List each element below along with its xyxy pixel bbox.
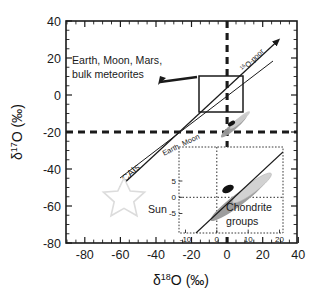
x-tick-label: -20: [182, 248, 200, 262]
inset-x-tick-label: 20: [275, 235, 284, 244]
x-axis-element: O: [171, 272, 182, 288]
inset-y-tick-label: -5: [169, 209, 177, 218]
x-tick-label: 40: [291, 248, 305, 262]
y-axis-element: O: [9, 131, 25, 142]
x-tick-label: 20: [256, 248, 270, 262]
y-tick-label: 20: [47, 52, 61, 66]
x-axis-units: (‰): [186, 272, 209, 288]
inset-x-tick-label: -10: [180, 235, 192, 244]
sun-label: Sun: [148, 203, 167, 215]
chondrite-groups-inset: -10 0 10 20 -5 0 5 Chondrite groups: [169, 147, 285, 244]
y-axis-delta: δ: [9, 152, 25, 160]
y-axis-mass: 17: [9, 142, 19, 152]
inset-y-tick-label: 0: [172, 193, 177, 202]
x-axis-mass: 18: [161, 272, 171, 282]
bulk-callout-line-1: Earth, Moon, Mars,: [72, 54, 162, 66]
y-tick-label: 40: [47, 15, 61, 29]
x-tick-label: -40: [147, 248, 165, 262]
inset-label-line-1: Chondrite: [226, 201, 272, 213]
inset-y-tick-label: 5: [172, 177, 177, 186]
chart-canvas: -80 -60 -40 -20 0 20 40 40 20 0 -20 -40 …: [0, 0, 316, 296]
x-tick-label: 0: [224, 248, 231, 262]
y-tick-label: -80: [43, 237, 61, 251]
y-tick-label: -40: [43, 163, 61, 177]
inset-label-line-2: groups: [226, 215, 258, 227]
bulk-callout-line-2: bulk meteorites: [72, 68, 144, 80]
oxygen-isotope-figure: -80 -60 -40 -20 0 20 40 40 20 0 -20 -40 …: [0, 0, 316, 296]
y-tick-label: -20: [43, 126, 61, 140]
x-tick-label: -80: [76, 248, 94, 262]
y-tick-label: -60: [43, 200, 61, 214]
y-tick-label: 0: [54, 89, 61, 103]
inset-x-tick-label: 0: [215, 235, 220, 244]
x-tick-label: -60: [111, 248, 129, 262]
x-axis-delta: δ: [153, 272, 161, 288]
inset-x-tick-label: 10: [244, 235, 253, 244]
y-axis-units: (‰): [9, 104, 25, 127]
